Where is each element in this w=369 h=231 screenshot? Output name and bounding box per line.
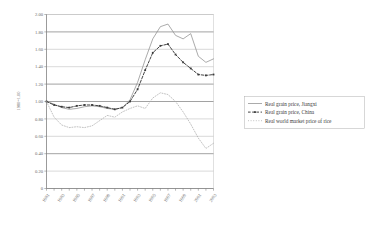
y-tick-label: 0.60 bbox=[35, 134, 44, 139]
series-marker bbox=[205, 75, 207, 77]
legend-marker-1 bbox=[254, 111, 256, 113]
data-series-group bbox=[46, 24, 215, 148]
x-tick-label: 2003 bbox=[208, 192, 218, 203]
series-marker bbox=[91, 104, 93, 106]
x-tick-label: 1989 bbox=[102, 192, 112, 203]
series-marker bbox=[175, 54, 177, 56]
series-marker bbox=[197, 74, 199, 76]
chart-canvas: 2.001.801.601.401.201.000.800.600.400.20… bbox=[0, 0, 369, 231]
x-tick-label: 1993 bbox=[132, 192, 142, 203]
series-marker bbox=[152, 52, 154, 54]
series-marker bbox=[114, 108, 116, 110]
y-tick-label: 2.00 bbox=[35, 12, 44, 17]
y-tick-label: 1.00 bbox=[35, 99, 44, 104]
series-marker bbox=[61, 106, 63, 108]
y-tick-label: 0.20 bbox=[35, 169, 44, 174]
y-axis-title-text: 1980=1.00 bbox=[16, 91, 21, 111]
series-marker bbox=[190, 68, 192, 70]
x-axis-tick-labels: 1981198319851987198919911993199519971999… bbox=[41, 192, 218, 203]
legend-label-2: Real world market price of rice bbox=[265, 118, 332, 124]
series-marker bbox=[53, 104, 55, 106]
x-tick-label: 1981 bbox=[41, 192, 51, 203]
x-tick-label: 1991 bbox=[117, 192, 127, 203]
series-marker bbox=[129, 101, 131, 103]
series-marker bbox=[76, 105, 78, 107]
x-tick-label: 1997 bbox=[163, 192, 173, 203]
y-tick-label: 0.80 bbox=[35, 117, 44, 122]
x-tick-label: 1995 bbox=[147, 192, 157, 203]
y-tick-label: 1.20 bbox=[35, 82, 44, 87]
legend-label-1: Real grain price, China bbox=[265, 109, 315, 115]
legend-label-0: Real grain price, Jiangxi bbox=[265, 101, 317, 107]
y-tick-label: 1.60 bbox=[35, 47, 44, 52]
series-marker bbox=[213, 74, 215, 76]
series-marker bbox=[68, 107, 70, 109]
x-tick-label: 1983 bbox=[56, 192, 66, 203]
series-marker bbox=[137, 88, 139, 90]
series-marker bbox=[122, 107, 124, 109]
y-tick-label: 1.80 bbox=[35, 30, 44, 35]
series-marker bbox=[182, 61, 184, 63]
y-axis-tick-labels: 2.001.801.601.401.201.000.800.600.400.20… bbox=[35, 12, 44, 191]
x-tick-label: 2001 bbox=[193, 192, 203, 203]
chart-figure: 2.001.801.601.401.201.000.800.600.400.20… bbox=[0, 0, 369, 231]
series-marker bbox=[106, 107, 108, 109]
series-marker bbox=[159, 45, 161, 47]
x-tick-label: 1987 bbox=[87, 192, 97, 203]
chart-legend: Real grain price, JiangxiReal grain pric… bbox=[245, 97, 365, 129]
series-marker bbox=[84, 104, 86, 106]
series-marker bbox=[167, 43, 169, 45]
y-tick-label: 0.40 bbox=[35, 151, 44, 156]
x-tick-label: 1985 bbox=[72, 192, 82, 203]
y-tick-label: 0 bbox=[41, 186, 44, 191]
y-tick-label: 1.40 bbox=[35, 64, 44, 69]
series-marker bbox=[99, 105, 101, 107]
series-marker bbox=[144, 69, 146, 71]
x-tick-label: 1999 bbox=[178, 192, 188, 203]
y-axis-title: 1980=1.00 bbox=[16, 91, 21, 111]
